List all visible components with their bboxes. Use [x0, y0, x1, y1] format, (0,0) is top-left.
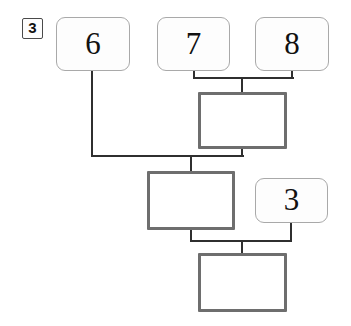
connector-bar-top — [193, 77, 294, 79]
operator-node-2[interactable] — [147, 171, 235, 230]
value-node-3-label: 3 — [284, 184, 300, 215]
badge-node-3[interactable]: 3 — [22, 18, 43, 39]
operator-node-3[interactable] — [198, 253, 287, 312]
value-node-6-label: 6 — [85, 28, 101, 59]
diagram-canvas: 3 6 7 8 3 — [0, 0, 351, 326]
connector-to-op3 — [241, 240, 243, 254]
badge-label: 3 — [28, 19, 36, 36]
connector-to-op2 — [190, 155, 192, 172]
operator-node-1[interactable] — [198, 92, 287, 149]
value-node-7-label: 7 — [186, 28, 202, 59]
connector-bar-mid — [91, 155, 244, 157]
operator-node-2-label — [150, 174, 232, 227]
value-node-6[interactable]: 6 — [56, 17, 130, 71]
operator-node-3-label — [201, 256, 284, 309]
value-node-3[interactable]: 3 — [255, 178, 328, 223]
value-node-7[interactable]: 7 — [157, 17, 230, 71]
operator-node-1-label — [201, 95, 284, 146]
connector-v6-down — [91, 71, 93, 157]
value-node-8[interactable]: 8 — [255, 17, 329, 71]
value-node-8-label: 8 — [284, 28, 300, 59]
